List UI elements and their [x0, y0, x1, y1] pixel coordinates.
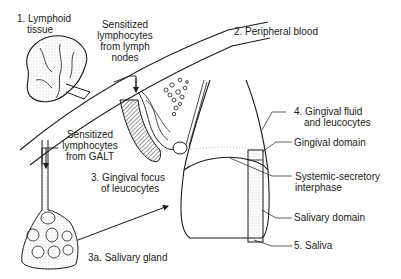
label-line: from GALT	[60, 151, 120, 162]
label-line: interphase	[295, 182, 380, 193]
saliva-flow-arrow	[78, 206, 168, 240]
label-line: nodes	[95, 52, 155, 63]
label-line: Systemic-secretory	[295, 171, 380, 182]
label-line: from lymph	[95, 41, 155, 52]
label-line: Sensitized	[60, 129, 120, 140]
label-line: Sensitized	[95, 19, 155, 30]
label-gingival-focus: 3. Gingival focus of leucocytes	[91, 172, 165, 194]
label-line: lymphocytes	[60, 140, 120, 151]
label-salivary-domain: Salivary domain	[294, 212, 365, 223]
label-line: and leucocytes	[294, 117, 371, 128]
label-saliva: 5. Saliva	[294, 240, 332, 251]
lymphoid-tissue-shape	[27, 36, 90, 102]
label-salivary-gland: 3a. Salivary gland	[88, 252, 168, 263]
label-lymphocytes-galt: Sensitized lymphocytes from GALT	[60, 129, 120, 162]
label-lymphoid-tissue: 1. Lymphoid tissue	[17, 13, 71, 35]
domain-box	[248, 150, 263, 242]
label-line: lymphocytes	[95, 30, 155, 41]
label-gingival-fluid: 4. Gingival fluid and leucocytes	[294, 106, 371, 128]
label-line: of leucocytes	[91, 183, 165, 194]
label-systemic-secretory: Systemic-secretory interphase	[295, 171, 380, 193]
label-line: tissue	[17, 24, 71, 35]
label-line: 4. Gingival fluid	[294, 106, 371, 117]
oral-immunity-diagram: 1. Lymphoid tissue Sensitized lymphocyte…	[0, 0, 401, 279]
leucocyte-cluster	[164, 78, 188, 116]
label-peripheral-blood: 2. Peripheral blood	[234, 26, 318, 37]
label-line: 1. Lymphoid	[17, 13, 71, 24]
label-line: 3. Gingival focus	[91, 172, 165, 183]
label-gingival-domain: Gingival domain	[294, 137, 366, 148]
label-lymphocytes-lymph-nodes: Sensitized lymphocytes from lymph nodes	[95, 19, 155, 63]
